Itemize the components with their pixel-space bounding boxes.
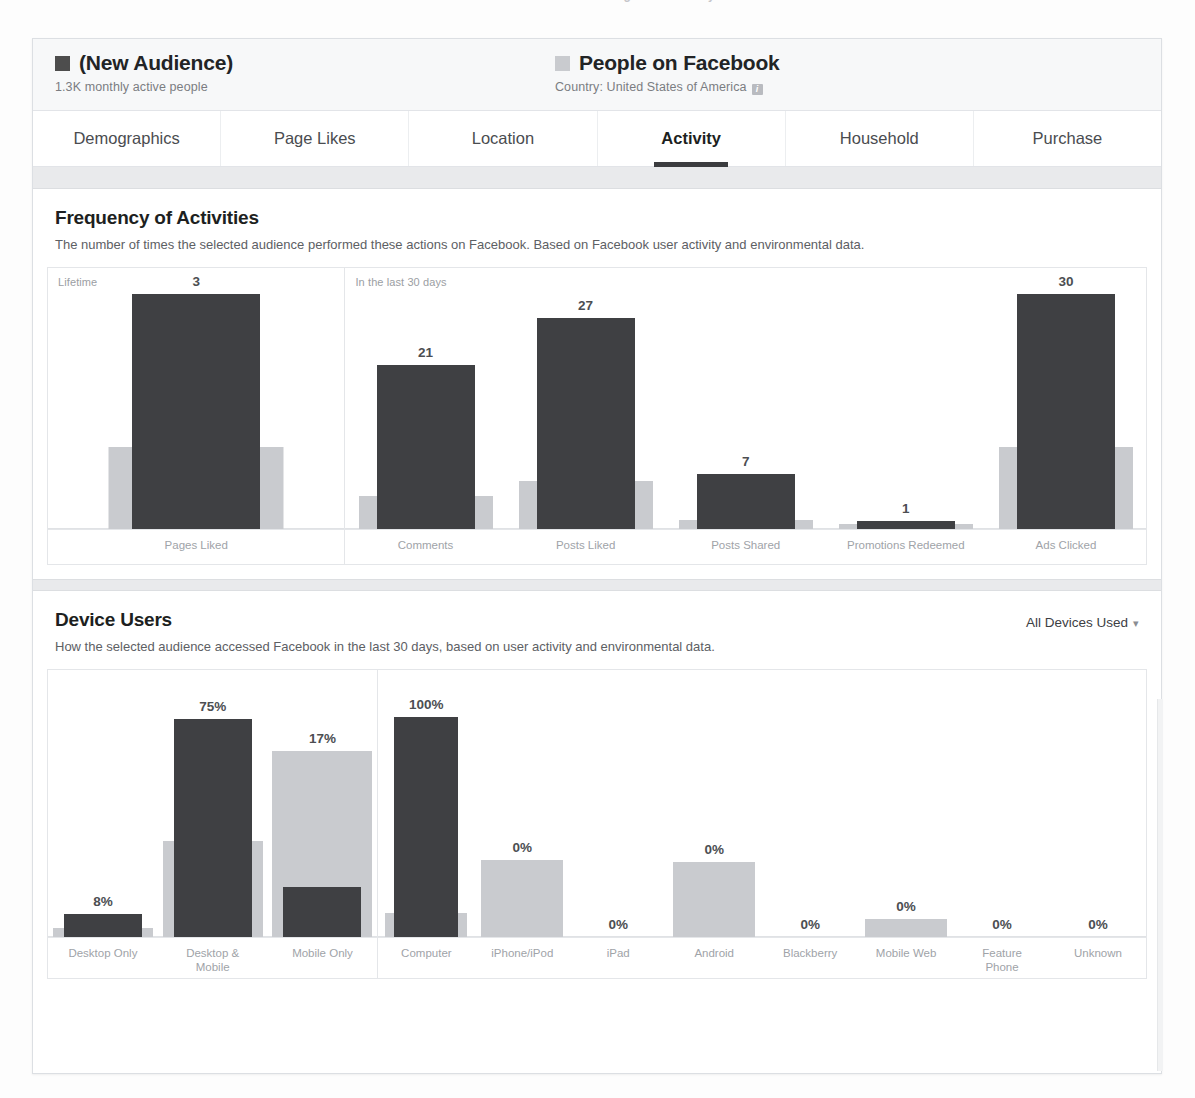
category-label: Ads Clicked bbox=[1006, 538, 1126, 552]
category-label: Promotions Redeemed bbox=[846, 538, 966, 552]
category-label: Unknown bbox=[1038, 946, 1158, 960]
vertical-scrollbar[interactable] bbox=[1157, 699, 1163, 1071]
panel-label-lifetime: Lifetime bbox=[58, 276, 97, 288]
category-label: Posts Liked bbox=[526, 538, 646, 552]
device-section-header: Device Users How the selected audience a… bbox=[33, 591, 1161, 669]
bar-value-label: 0% bbox=[608, 917, 628, 932]
bar-value-label: 3 bbox=[192, 274, 200, 289]
frequency-panel-30days: In the last 30 days 21277130 CommentsPos… bbox=[344, 268, 1146, 564]
bar-value-label: 75% bbox=[199, 699, 226, 714]
bar-selected-audience bbox=[132, 294, 260, 529]
comparison-audience-title: People on Facebook bbox=[579, 51, 780, 75]
bar-value-label: 100% bbox=[409, 697, 444, 712]
frequency-chart: Lifetime 3 Pages Liked In the last 30 da… bbox=[47, 267, 1147, 565]
device-chart: 8%75%17% Desktop OnlyDesktop & MobileMob… bbox=[47, 669, 1147, 979]
all-devices-used-dropdown[interactable]: All Devices Used▾ bbox=[1026, 615, 1139, 630]
device-section-description: How the selected audience accessed Faceb… bbox=[55, 638, 1139, 655]
bar-value-label: 0% bbox=[992, 917, 1012, 932]
selected-audience-swatch-icon bbox=[55, 56, 70, 71]
selected-audience-summary: (New Audience) 1.3K monthly active peopl… bbox=[33, 51, 233, 110]
tab-location[interactable]: Location bbox=[409, 111, 597, 166]
bar-selected-audience bbox=[377, 365, 475, 529]
category-label: Pages Liked bbox=[136, 538, 256, 552]
tab-purchase[interactable]: Purchase bbox=[974, 111, 1161, 166]
frequency-section-header: Frequency of Activities The number of ti… bbox=[33, 189, 1161, 267]
comparison-audience-subtitle: Country: United States of Americai bbox=[555, 80, 780, 95]
selected-audience-title: (New Audience) bbox=[79, 51, 233, 75]
bar-value-label: 0% bbox=[800, 917, 820, 932]
tab-page-likes[interactable]: Page Likes bbox=[221, 111, 409, 166]
bar-value-label: 1 bbox=[902, 501, 910, 516]
comparison-audience-summary: People on Facebook Country: United State… bbox=[525, 51, 780, 110]
bar-comparison bbox=[673, 862, 755, 937]
bar-selected-audience bbox=[697, 474, 795, 529]
bar-selected-audience bbox=[1017, 294, 1115, 529]
insights-page: Facebook Audience Insights — Activity (N… bbox=[0, 0, 1195, 1098]
section-separator bbox=[33, 579, 1161, 591]
info-icon[interactable]: i bbox=[752, 84, 763, 95]
device-panel-device-type: 100%0%0%0%0%0%0%0% ComputeriPhone/iPodiP… bbox=[377, 670, 1146, 978]
category-label: Desktop & Mobile bbox=[153, 946, 273, 974]
bar-selected-audience bbox=[64, 914, 142, 937]
bar-value-label: 30 bbox=[1058, 274, 1073, 289]
bar-selected-audience bbox=[394, 717, 458, 937]
tab-activity[interactable]: Activity bbox=[598, 111, 786, 166]
frequency-section-description: The number of times the selected audienc… bbox=[55, 236, 1139, 253]
bar-comparison bbox=[865, 919, 947, 937]
bar-value-label: 0% bbox=[704, 842, 724, 857]
tab-household[interactable]: Household bbox=[786, 111, 974, 166]
bar-value-label: 7 bbox=[742, 454, 750, 469]
bar-value-label: 8% bbox=[93, 894, 113, 909]
category-label: Mobile Only bbox=[262, 946, 382, 960]
bar-selected-audience bbox=[857, 521, 955, 529]
bar-selected-audience bbox=[537, 318, 635, 529]
bar-comparison bbox=[481, 860, 563, 937]
audience-insights-card: (New Audience) 1.3K monthly active peopl… bbox=[32, 38, 1162, 1074]
tab-bar: Demographics Page Likes Location Activit… bbox=[33, 111, 1161, 167]
category-label: Desktop Only bbox=[43, 946, 163, 960]
device-panel-usage-type: 8%75%17% Desktop OnlyDesktop & MobileMob… bbox=[48, 670, 377, 978]
bar-value-label: 0% bbox=[513, 840, 533, 855]
frequency-panel-lifetime: Lifetime 3 Pages Liked bbox=[48, 268, 344, 564]
comparison-audience-swatch-icon bbox=[555, 56, 570, 71]
bar-value-label: 27 bbox=[578, 298, 593, 313]
category-label: Comments bbox=[366, 538, 486, 552]
dropdown-label: All Devices Used bbox=[1026, 615, 1128, 630]
bar-selected-audience bbox=[174, 719, 252, 937]
bar-value-label: 17% bbox=[309, 731, 336, 746]
bar-value-label: 21 bbox=[418, 345, 433, 360]
category-label: Posts Shared bbox=[686, 538, 806, 552]
section-divider-band bbox=[33, 167, 1161, 189]
selected-audience-subtitle: 1.3K monthly active people bbox=[55, 80, 233, 94]
tab-demographics[interactable]: Demographics bbox=[33, 111, 221, 166]
bar-value-label: 0% bbox=[896, 899, 916, 914]
frequency-section-title: Frequency of Activities bbox=[55, 207, 1139, 229]
device-section-title: Device Users bbox=[55, 609, 1139, 631]
panel-label-30days: In the last 30 days bbox=[355, 276, 446, 288]
cut-off-top-text: Facebook Audience Insights — Activity bbox=[0, 0, 1195, 9]
chevron-down-icon: ▾ bbox=[1133, 617, 1139, 630]
bar-value-label: 0% bbox=[1088, 917, 1108, 932]
bar-selected-audience bbox=[283, 887, 361, 937]
audience-header: (New Audience) 1.3K monthly active peopl… bbox=[33, 39, 1161, 111]
